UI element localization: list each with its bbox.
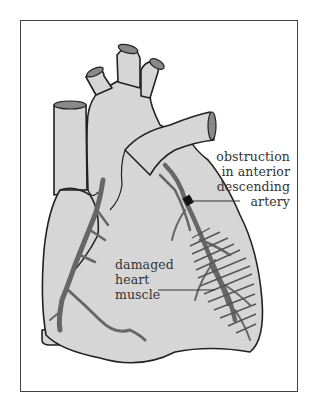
- obstruction-label-line-1: obstruction: [180, 149, 290, 164]
- damaged-muscle-label: damaged heart muscle: [115, 257, 174, 302]
- damaged-label-line-2: heart: [115, 272, 174, 287]
- damaged-label-line-1: damaged: [115, 257, 174, 272]
- obstruction-label-line-4: artery: [180, 194, 290, 209]
- obstruction-label: obstruction in anterior descending arter…: [180, 149, 290, 209]
- obstruction-label-line-2: in anterior: [180, 164, 290, 179]
- damaged-label-line-3: muscle: [115, 287, 174, 302]
- obstruction-label-line-3: descending: [180, 179, 290, 194]
